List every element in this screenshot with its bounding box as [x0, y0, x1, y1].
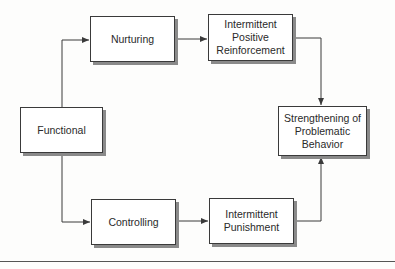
- node-label: Intermittent Positive Reinforcement: [216, 18, 284, 57]
- node-label: Controlling: [108, 216, 158, 229]
- node-label: Functional: [37, 124, 85, 137]
- node-nurturing: Nurturing: [90, 16, 175, 62]
- node-intermittent-positive-reinforcement: Intermittent Positive Reinforcement: [208, 14, 293, 61]
- edge-functional-nurturing: [62, 40, 89, 107]
- edge-ip-strengthening: [294, 157, 321, 221]
- flow-diagram: Functional Nurturing Controlling Intermi…: [0, 0, 395, 269]
- node-functional: Functional: [20, 107, 103, 153]
- node-label: Intermittent Punishment: [224, 208, 279, 234]
- node-intermittent-punishment: Intermittent Punishment: [209, 198, 294, 244]
- edge-ipr-strengthening: [293, 38, 321, 105]
- node-strengthening-of-problematic-behavior: Strengthening of Problematic Behavior: [278, 106, 367, 156]
- bottom-rule: [0, 261, 395, 262]
- node-controlling: Controlling: [91, 199, 176, 245]
- node-label: Strengthening of Problematic Behavior: [284, 112, 361, 151]
- edge-functional-controlling: [62, 153, 90, 222]
- node-label: Nurturing: [111, 33, 154, 46]
